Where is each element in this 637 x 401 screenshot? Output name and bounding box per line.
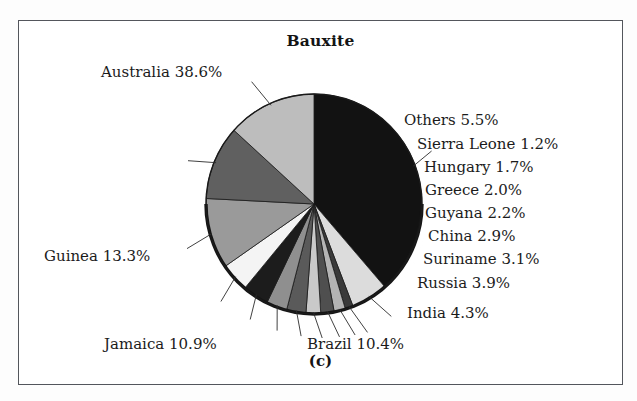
leader-line-india: [221, 277, 236, 302]
pie-label-hungary: Hungary 1.7%: [424, 160, 533, 175]
figure-caption: (c): [19, 352, 622, 370]
pie-label-greece: Greece 2.0%: [425, 183, 522, 198]
pie-label-australia: Australia 38.6%: [101, 65, 222, 80]
leader-line-guinea: [252, 82, 271, 106]
pie-label-sierra-leone: Sierra Leone 1.2%: [417, 137, 558, 152]
pie-label-brazil: Brazil 10.4%: [307, 337, 404, 352]
figure-frame: Bauxite Australia 38.6% Others 5.5% Sier…: [18, 20, 623, 385]
pie-label-guinea: Guinea 13.3%: [44, 249, 150, 264]
leader-line-jamaica: [188, 161, 216, 163]
pie-label-jamaica: Jamaica 10.9%: [104, 337, 217, 352]
leader-line-brazil: [187, 234, 212, 249]
pie-label-others: Others 5.5%: [404, 113, 499, 128]
pie-label-china: China 2.9%: [428, 229, 515, 244]
pie-label-russia: Russia 3.9%: [417, 276, 510, 291]
pie-slice-group: [206, 94, 422, 314]
pie-label-india: India 4.3%: [407, 306, 489, 321]
pie-label-suriname: Suriname 3.1%: [423, 252, 539, 267]
pie-label-guyana: Guyana 2.2%: [425, 206, 526, 221]
leader-line-hungary: [339, 309, 355, 335]
leader-line-others: [369, 296, 392, 316]
